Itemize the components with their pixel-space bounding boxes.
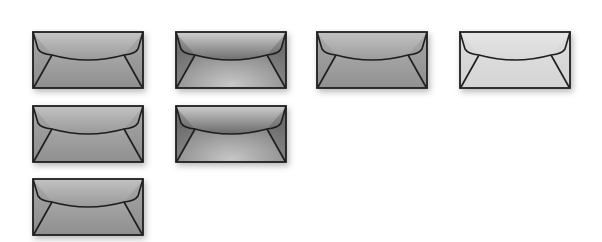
envelope-icon[interactable] [32,31,144,89]
envelope-icon[interactable] [175,31,287,89]
envelope-icon[interactable] [459,31,571,89]
envelope-icon[interactable] [316,31,428,89]
envelope-icon[interactable] [175,105,287,163]
envelope-icon[interactable] [32,178,144,236]
envelope-icon[interactable] [32,105,144,163]
